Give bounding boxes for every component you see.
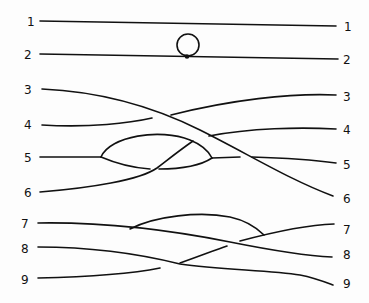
upper-arc-7 <box>130 214 264 235</box>
left-label-5: 5 <box>24 151 32 165</box>
strand-7-to-8 <box>38 223 332 257</box>
right-label-2: 2 <box>343 53 351 67</box>
left-label-7: 7 <box>21 217 29 231</box>
right-label-7: 7 <box>343 223 351 237</box>
left-label-1: 1 <box>27 15 35 29</box>
right-label-9: 9 <box>343 277 351 291</box>
loop-vertex-dot <box>185 54 190 59</box>
strand-5-right <box>252 157 336 163</box>
strand-6-to-4 <box>209 128 336 136</box>
strand-3-to-6 <box>42 89 333 196</box>
left-label-3: 3 <box>24 83 32 97</box>
strand-1 <box>40 21 336 26</box>
eye-lower-arc-left <box>101 157 150 169</box>
left-label-4: 4 <box>24 118 32 132</box>
right-label-6: 6 <box>343 192 351 206</box>
kink-loop <box>177 34 199 56</box>
strand-4-left <box>42 118 152 126</box>
left-label-2: 2 <box>24 48 32 62</box>
right-label-3: 3 <box>343 90 351 104</box>
strand-9-left <box>38 268 160 278</box>
strand-4-to-3 <box>171 95 336 115</box>
strand-9-crossing <box>180 246 227 263</box>
left-label-6: 6 <box>24 186 32 200</box>
right-label-5: 5 <box>343 158 351 172</box>
right-label-4: 4 <box>343 123 351 137</box>
strand-5-mid <box>212 157 240 158</box>
braid-diagram: 1 2 3 4 5 6 7 8 9 1 2 3 4 5 6 7 8 9 <box>0 0 369 303</box>
right-label-1: 1 <box>344 20 352 34</box>
left-label-8: 8 <box>21 242 29 256</box>
eye-upper-arc <box>101 134 212 158</box>
right-label-8: 8 <box>343 248 351 262</box>
strand-6-left <box>40 141 193 192</box>
left-label-9: 9 <box>21 273 29 287</box>
